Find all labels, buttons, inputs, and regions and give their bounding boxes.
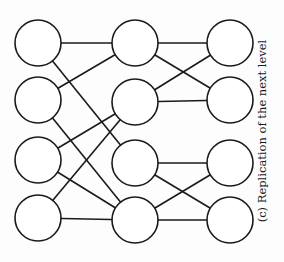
node-L4 <box>15 195 61 241</box>
diagram-canvas: (c) Replication of the next level <box>0 0 284 262</box>
node-L3 <box>15 137 61 183</box>
node-M4 <box>112 197 158 243</box>
node-L1 <box>15 20 61 66</box>
node-M1 <box>112 20 158 66</box>
edges-layer <box>38 43 230 220</box>
node-M2 <box>112 79 158 125</box>
node-R1 <box>207 20 253 66</box>
nodes-layer <box>15 20 253 243</box>
node-L2 <box>15 77 61 123</box>
node-R3 <box>207 140 253 186</box>
node-R4 <box>207 197 253 243</box>
network-graph <box>0 0 284 262</box>
node-M3 <box>112 140 158 186</box>
figure-caption: (c) Replication of the next level <box>255 40 269 223</box>
node-R2 <box>207 77 253 123</box>
